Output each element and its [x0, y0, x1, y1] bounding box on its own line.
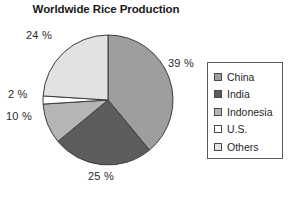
legend-label-others: Others: [227, 142, 259, 153]
pie-slice-others: [43, 35, 108, 100]
legend-item-china: China: [214, 68, 282, 86]
legend-item-indonesia: Indonesia: [214, 103, 282, 121]
legend-swatch-china: [214, 73, 222, 81]
legend-label-us: U.S.: [227, 124, 247, 135]
legend-swatch-others: [214, 143, 222, 151]
pie-chart-figure: Worldwide Rice Production 39 % 25 % 10 %…: [0, 0, 293, 198]
legend-swatch-indonesia: [214, 108, 222, 116]
legend-swatch-india: [214, 90, 222, 98]
pie-plot-area: 39 % 25 % 10 % 2 % 24 %: [0, 0, 212, 198]
slice-label-indonesia: 10 %: [6, 110, 32, 122]
legend-label-indonesia: Indonesia: [227, 107, 273, 118]
slice-label-others: 24 %: [26, 29, 52, 41]
chart-legend: China India Indonesia U.S. Others: [207, 62, 283, 159]
legend-label-china: China: [227, 72, 254, 83]
legend-item-india: India: [214, 86, 282, 104]
legend-item-us: U.S.: [214, 121, 282, 139]
legend-item-others: Others: [214, 138, 282, 156]
slice-label-us: 2 %: [8, 88, 28, 100]
legend-swatch-us: [214, 125, 222, 133]
pie-slices-group: [43, 35, 173, 165]
slice-label-india: 25 %: [88, 170, 114, 182]
legend-label-india: India: [227, 89, 250, 100]
slice-label-china: 39 %: [168, 57, 194, 69]
